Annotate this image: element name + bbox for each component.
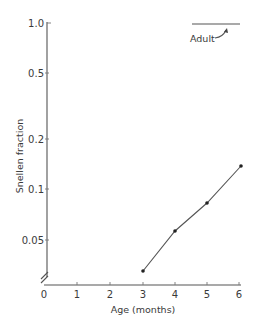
x-tick-label: 4 <box>172 289 178 300</box>
x-tick-label: 6 <box>236 289 242 300</box>
data-point <box>173 229 177 233</box>
y-tick-label: 0.1 <box>28 184 44 195</box>
y-tick-label: 1.0 <box>28 18 44 29</box>
y-tick-label: 0.5 <box>28 68 44 79</box>
x-axis-label: Age (months) <box>111 304 176 315</box>
x-tick-label: 2 <box>107 289 113 300</box>
y-ticks <box>45 23 51 240</box>
y-tick-labels: 1.0 0.5 0.2 0.1 0.05 <box>22 18 44 246</box>
annotation-arrow <box>215 30 226 38</box>
chart: 1.0 0.5 0.2 0.1 0.05 0 1 2 3 4 5 6 Age (… <box>0 0 257 325</box>
x-tick-label: 0 <box>41 289 47 300</box>
x-tick-label: 1 <box>74 289 80 300</box>
adult-annotation: Adult <box>190 33 215 44</box>
x-tick-label: 3 <box>140 289 146 300</box>
data-line <box>143 166 241 271</box>
y-tick-label: 0.2 <box>28 134 44 145</box>
y-axis-label: Snellen fraction <box>14 119 25 194</box>
y-tick-label: 0.05 <box>22 235 44 246</box>
axis-break-mark <box>41 276 48 283</box>
data-point <box>141 269 145 273</box>
data-point <box>205 201 209 205</box>
x-tick-label: 5 <box>204 289 210 300</box>
x-tick-labels: 0 1 2 3 4 5 6 <box>41 289 242 300</box>
data-point <box>239 164 243 168</box>
